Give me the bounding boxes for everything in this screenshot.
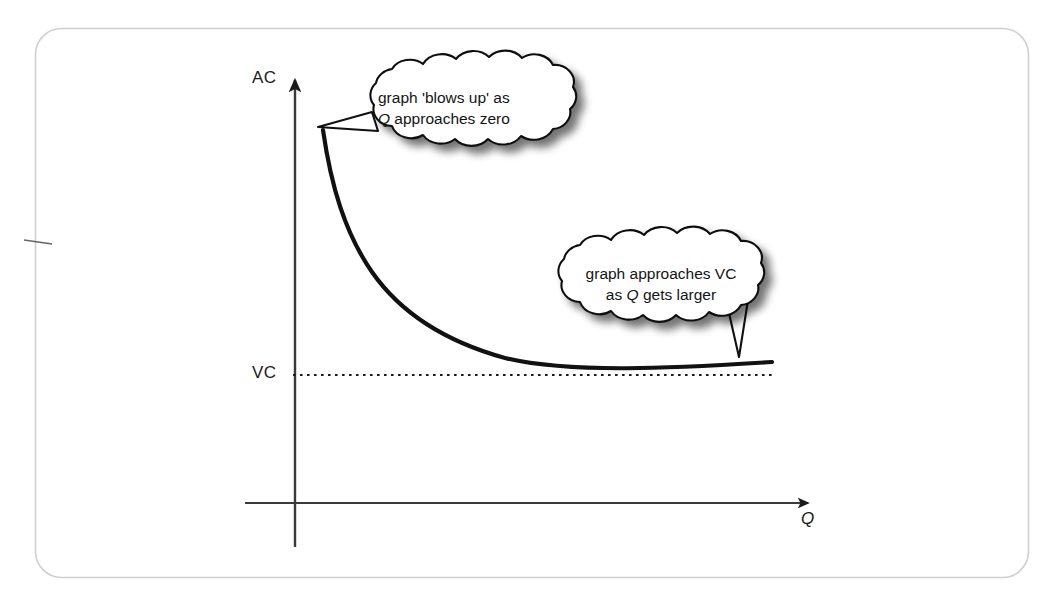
callout-blows-up-line1-b: as bbox=[489, 89, 510, 106]
callout-approaches-vc-line2: as Q gets larger bbox=[566, 284, 756, 305]
callout-blows-up-line1-quote: 'blows up' bbox=[422, 89, 489, 106]
callout-blows-up-line1-a: graph bbox=[378, 89, 422, 106]
callout-blows-up-line1: graph 'blows up' as bbox=[378, 87, 510, 108]
y-axis-label: AC bbox=[252, 68, 276, 88]
callout-blows-up-tail bbox=[318, 112, 378, 131]
x-axis-label: Q bbox=[801, 509, 815, 529]
callout-approaches-vc-line2-b: gets larger bbox=[639, 286, 717, 303]
scan-artifact-tick bbox=[24, 240, 52, 244]
callout-blows-up-text: graph 'blows up' as Q approaches zero bbox=[378, 87, 510, 129]
vc-threshold-label: VC bbox=[252, 363, 276, 383]
callout-approaches-vc-text: graph approaches VC as Q gets larger bbox=[566, 263, 756, 305]
callout-blows-up-variable: Q bbox=[378, 110, 390, 127]
callout-approaches-vc-line1: graph approaches VC bbox=[566, 263, 756, 284]
figure-canvas bbox=[0, 0, 1058, 600]
callout-approaches-vc-variable: Q bbox=[627, 286, 639, 303]
callout-blows-up-line2-rest: approaches zero bbox=[390, 110, 510, 127]
callout-blows-up-line2: Q approaches zero bbox=[378, 108, 510, 129]
figure-root: AC VC Q graph 'blows up' as Q approaches… bbox=[0, 0, 1058, 600]
callout-approaches-vc-line2-a: as bbox=[606, 286, 627, 303]
